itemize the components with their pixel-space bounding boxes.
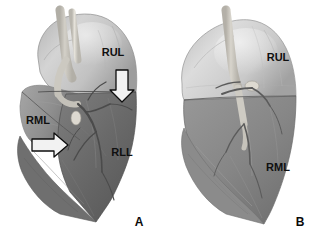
label-rml-a: RML bbox=[26, 114, 50, 126]
panel-a: RUL RML RLL A bbox=[0, 0, 160, 240]
panel-letter-b: B bbox=[296, 215, 305, 229]
label-rml-b: RML bbox=[266, 161, 290, 173]
panel-b: RUL RML B bbox=[160, 0, 320, 240]
lung-lobe-figure: RUL RML RLL A bbox=[0, 0, 320, 240]
label-rul-a: RUL bbox=[102, 46, 125, 58]
panel-letter-a: A bbox=[135, 215, 144, 229]
label-rul-b: RUL bbox=[267, 51, 290, 63]
label-rll-a: RLL bbox=[111, 146, 133, 158]
